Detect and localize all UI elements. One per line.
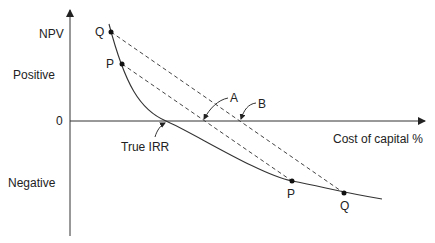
arrow-b [241, 103, 256, 119]
arrow-label-b: B [258, 98, 266, 110]
point-q-bottom [342, 191, 347, 196]
x-axis-label: Cost of capital % [333, 133, 423, 145]
point-label-p-bottom: P [287, 188, 295, 200]
zero-label: 0 [56, 115, 63, 127]
dashed-line-pp [122, 64, 292, 181]
dashed-line-qq [111, 32, 344, 193]
diagram-graphics [0, 0, 435, 243]
positive-label: Positive [13, 69, 55, 81]
point-p-bottom [290, 179, 295, 184]
npv-curve [109, 24, 382, 199]
point-p-top [120, 62, 125, 67]
point-label-q-top: Q [95, 26, 104, 38]
point-label-q-bottom: Q [340, 200, 349, 212]
irr-interpolation-diagram: NPV Positive 0 Negative Cost of capital … [0, 0, 435, 243]
point-q-top [109, 30, 114, 35]
arrow-true-irr [155, 123, 165, 137]
negative-label: Negative [8, 177, 55, 189]
arrow-label-a: A [230, 92, 238, 104]
arrow-a [204, 98, 228, 119]
y-axis-label: NPV [39, 28, 64, 40]
true-irr-label: True IRR [121, 141, 169, 153]
point-label-p-top: P [106, 58, 114, 70]
